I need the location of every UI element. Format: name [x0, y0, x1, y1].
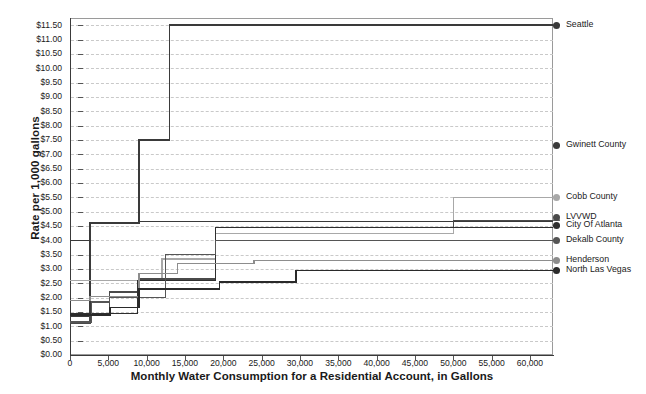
series-line: [70, 270, 553, 314]
legend-label: Dekalb County: [566, 234, 624, 244]
legend-label: North Las Vegas: [566, 264, 631, 274]
series-line: [70, 197, 553, 280]
series-line: [70, 220, 553, 323]
series-line: [70, 25, 553, 240]
legend-label: Cobb County: [566, 191, 617, 201]
legend-label: Henderson: [566, 254, 609, 264]
legend-marker-icon: [553, 22, 560, 29]
series-line: [70, 222, 553, 317]
legend-marker-icon: [553, 267, 560, 274]
chart-canvas: Rate per 1,000 gallons Monthly Water Con…: [0, 0, 646, 394]
legend-label: Seattle: [566, 19, 593, 29]
series-line: [70, 240, 553, 322]
legend-label: Gwinett County: [566, 139, 626, 149]
legend-marker-icon: [553, 257, 560, 264]
legend-marker-icon: [553, 194, 560, 201]
legend-label: City Of Atlanta: [566, 219, 622, 229]
legend-marker-icon: [553, 237, 560, 244]
series-layer: [0, 0, 646, 394]
